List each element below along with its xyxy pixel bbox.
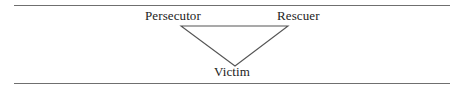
node-label-persecutor: Persecutor: [145, 8, 201, 23]
node-label-victim: Victim: [214, 64, 250, 79]
node-label-rescuer: Rescuer: [277, 8, 320, 23]
figure-container: Persecutor Rescuer Victim: [0, 0, 464, 92]
triangle-outline: [181, 26, 288, 66]
horizontal-rule-bottom: [14, 83, 450, 84]
